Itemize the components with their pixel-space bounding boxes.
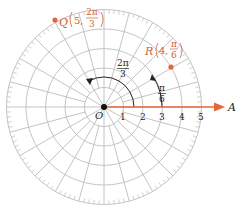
polar-axis-arrowhead <box>214 103 225 112</box>
svg-text:,: , <box>165 45 168 56</box>
grid-ray <box>104 107 188 156</box>
point-q <box>52 17 57 22</box>
grid-ray <box>118 121 173 176</box>
grid-ray <box>20 58 104 107</box>
origin-label: O <box>95 110 103 121</box>
axis-label: A <box>227 101 236 114</box>
angle-arc-2pi-3-arrowhead <box>86 78 93 85</box>
angle-label-pi-6: π 6 <box>158 83 166 104</box>
radial-tick-2: 2 <box>140 112 146 122</box>
svg-text:,: , <box>80 15 83 26</box>
grid-ray <box>20 107 104 156</box>
svg-text:π: π <box>171 39 177 49</box>
polar-coordinate-diagram: O A 1 2 3 4 5 2π 3 π 6 Q 5 , 2π 3 R 4 , … <box>0 0 243 220</box>
point-q-label: Q 5 , 2π 3 <box>59 7 103 29</box>
grid-ray <box>10 112 85 132</box>
point-r-label: R 4 , π 6 <box>144 39 182 60</box>
svg-text:3: 3 <box>89 19 95 29</box>
svg-text:Q: Q <box>59 16 68 29</box>
svg-text:6: 6 <box>171 50 177 60</box>
svg-text:6: 6 <box>159 94 165 104</box>
grid-ray <box>109 126 129 201</box>
svg-text:π: π <box>159 83 165 93</box>
radial-tick-5: 5 <box>198 112 204 122</box>
grid-ray <box>35 38 90 93</box>
radial-tick-3: 3 <box>159 112 165 122</box>
svg-text:2π: 2π <box>117 58 129 68</box>
grid-ray <box>55 23 104 107</box>
radial-tick-1: 1 <box>120 112 126 122</box>
grid-ray <box>79 126 99 201</box>
radial-tick-4: 4 <box>179 112 185 122</box>
grid-ray <box>10 82 85 102</box>
svg-text:2π: 2π <box>86 7 98 17</box>
grid-ray <box>35 121 90 176</box>
svg-text:R: R <box>144 45 153 58</box>
svg-text:3: 3 <box>120 69 126 79</box>
point-r <box>168 64 173 69</box>
